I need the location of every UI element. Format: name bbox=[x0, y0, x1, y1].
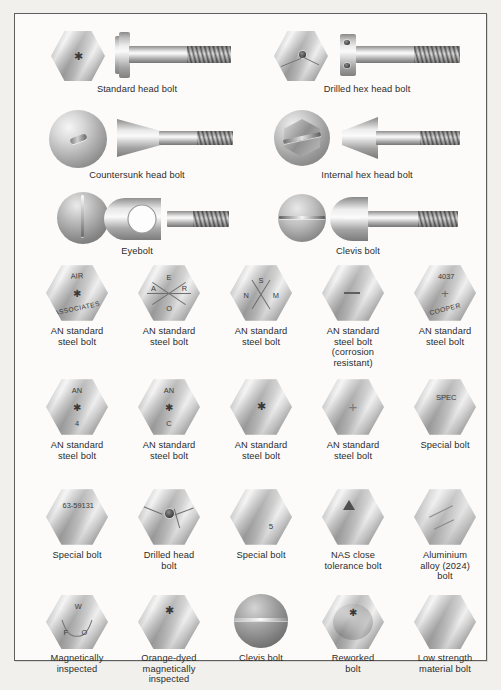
bolt-an-standard-steel-bolt-air-associates: AIR ✱ ASSOCIATES AN standard steel bolt bbox=[31, 264, 123, 369]
round-head-view bbox=[57, 192, 109, 244]
bolt-clevis-bolt: Clevis bolt bbox=[262, 190, 472, 262]
bolt-special-bolt-5: 5 Special bolt bbox=[215, 488, 307, 588]
head-markings: AN ✱ 4 bbox=[46, 378, 108, 436]
mark-right: M bbox=[273, 291, 279, 300]
bolt-side-view bbox=[340, 32, 464, 78]
caption: Clevis bolt bbox=[215, 653, 307, 664]
head-markings: AIR ✱ ASSOCIATES bbox=[46, 264, 108, 322]
bolt-side-view bbox=[117, 118, 235, 158]
caption: Magnetically inspected bbox=[31, 653, 123, 674]
hex-head-view bbox=[274, 30, 328, 82]
bolt-an-standard-steel-bolt-plain-asterisk: ✱ AN standard steel bolt bbox=[215, 378, 307, 478]
round-head-view bbox=[274, 110, 330, 166]
head-marking-drilled-hole bbox=[274, 30, 328, 82]
mark-top: S bbox=[259, 275, 264, 284]
caption: NAS close tolerance bolt bbox=[307, 550, 399, 571]
mark-top: AN bbox=[164, 386, 174, 395]
bolt-eyebolt: Eyebolt bbox=[37, 190, 237, 262]
bolt-drilled-hex-head-bolt: Drilled hex head bolt bbox=[262, 26, 472, 104]
caption: Reworked bolt bbox=[307, 653, 399, 674]
hex-head: SPEC bbox=[414, 378, 476, 436]
bolt-side-view bbox=[117, 196, 235, 242]
head-marking-asterisk: ✱ bbox=[51, 30, 105, 82]
mark-grade: 5 bbox=[269, 522, 273, 531]
caption: AN standard steel bolt bbox=[123, 326, 215, 347]
mark-bottom: C bbox=[166, 419, 171, 428]
head-marking-asterisk: ✱ bbox=[138, 594, 200, 650]
round-head-view bbox=[49, 110, 107, 168]
head-marking-triangle bbox=[322, 488, 384, 546]
caption: AN standard steel bolt bbox=[123, 440, 215, 461]
caption: AN standard steel bolt (corrosion resist… bbox=[307, 326, 399, 368]
hex-head bbox=[414, 594, 476, 650]
chart-page: ✱ Standard head bolt Drilled hex head b bbox=[0, 0, 501, 690]
caption: Drilled head bolt bbox=[123, 550, 215, 571]
caption: Internal hex head bolt bbox=[262, 170, 472, 181]
caption: Low strength material bolt bbox=[399, 653, 491, 674]
head-marking-slot bbox=[234, 618, 288, 621]
bolt-side-view bbox=[115, 32, 233, 78]
caption: AN standard steel bolt bbox=[31, 440, 123, 461]
mark-symbol-asterisk: ✱ bbox=[165, 402, 173, 413]
mark-top: E bbox=[167, 272, 172, 281]
head-marking-drilled-hole bbox=[138, 488, 200, 546]
caption: AN standard steel bolt bbox=[215, 326, 307, 347]
bolt-side-view bbox=[338, 196, 466, 242]
hex-head: AIR ✱ ASSOCIATES bbox=[46, 264, 108, 322]
mark-right: O bbox=[82, 628, 88, 637]
caption: AN standard steel bolt bbox=[307, 440, 399, 461]
caption: Special bolt bbox=[31, 550, 123, 561]
caption: AN standard steel bolt bbox=[399, 326, 491, 347]
bolt-drilled-head-bolt: Drilled head bolt bbox=[123, 488, 215, 588]
mark-right: R bbox=[182, 284, 187, 293]
head-marking-asterisk-recessed: ✱ bbox=[322, 594, 384, 650]
bolt-an-standard-steel-bolt-an-c: AN ✱ C AN standard steel bolt bbox=[123, 378, 215, 478]
mark-bottom: O bbox=[166, 304, 172, 313]
bolt-an-standard-steel-bolt-corrosion: AN standard steel bolt (corrosion resist… bbox=[307, 264, 399, 369]
bolt-orange-dyed-magnetically-inspected-bolt: ✱ Orange-dyed magnetically inspected bbox=[123, 594, 215, 658]
mark-left: A bbox=[151, 284, 156, 293]
head-marking-dash bbox=[322, 264, 384, 322]
bolt-reworked-bolt: ✱ Reworked bolt bbox=[307, 594, 399, 658]
bolt-nas-close-tolerance-bolt: NAS close tolerance bolt bbox=[307, 488, 399, 588]
mark-top: W bbox=[75, 602, 82, 611]
head-markings: S N M bbox=[230, 264, 292, 322]
bolt-special-bolt-spec: SPEC Special bolt bbox=[399, 378, 491, 478]
bolt-magnetically-inspected-bolt: W F O Magnetically inspected bbox=[31, 594, 123, 658]
bolt-side-view bbox=[340, 116, 464, 160]
head-markings: W F O bbox=[46, 594, 108, 650]
bolt-an-standard-steel-bolt-snm: S N M AN standard steel bolt bbox=[215, 264, 307, 369]
mark-symbol-asterisk: ✱ bbox=[73, 402, 81, 413]
hex-head: 5 bbox=[230, 488, 292, 546]
head-markings: 5 bbox=[230, 488, 292, 546]
hex-head-view: ✱ bbox=[51, 30, 105, 82]
caption: Clevis bolt bbox=[268, 246, 448, 257]
hex-head bbox=[322, 264, 384, 322]
hex-head: E A R O bbox=[138, 264, 200, 322]
hex-head: 63-59131 bbox=[46, 488, 108, 546]
head-markings: AN ✱ C bbox=[138, 378, 200, 436]
mark-top: 4037 bbox=[438, 271, 454, 280]
bolt-an-standard-steel-bolt-an-4: AN ✱ 4 AN standard steel bolt bbox=[31, 378, 123, 478]
hex-head bbox=[414, 488, 476, 546]
head-marking-double-dash bbox=[414, 488, 476, 546]
mark-bottom: ASSOCIATES bbox=[53, 300, 100, 317]
bolt-special-bolt-63-59131: 63-59131 Special bolt bbox=[31, 488, 123, 588]
hex-head: ✱ bbox=[138, 594, 200, 650]
caption: AN standard steel bolt bbox=[31, 326, 123, 347]
hex-head: W F O bbox=[46, 594, 108, 650]
caption: Eyebolt bbox=[47, 246, 227, 257]
head-markings: SPEC bbox=[414, 378, 476, 436]
hex-head: + bbox=[322, 378, 384, 436]
head-markings: 4037 + COOPER bbox=[414, 264, 476, 322]
head-marking-slot bbox=[279, 216, 325, 219]
mark-top: AN bbox=[72, 386, 82, 395]
chart-frame: ✱ Standard head bolt Drilled hex head b bbox=[14, 13, 487, 661]
caption: Special bolt bbox=[215, 550, 307, 561]
bolt-an-standard-steel-bolt-4037-cooper: 4037 + COOPER AN standard steel bolt bbox=[399, 264, 491, 369]
head-marking-slot bbox=[69, 133, 87, 144]
caption: Aluminium alloy (2024) bolt bbox=[399, 550, 491, 582]
hex-head: S N M bbox=[230, 264, 292, 322]
bolt-clevis-bolt-round: Clevis bolt bbox=[215, 594, 307, 658]
mark-symbol-asterisk: ✱ bbox=[73, 288, 81, 299]
